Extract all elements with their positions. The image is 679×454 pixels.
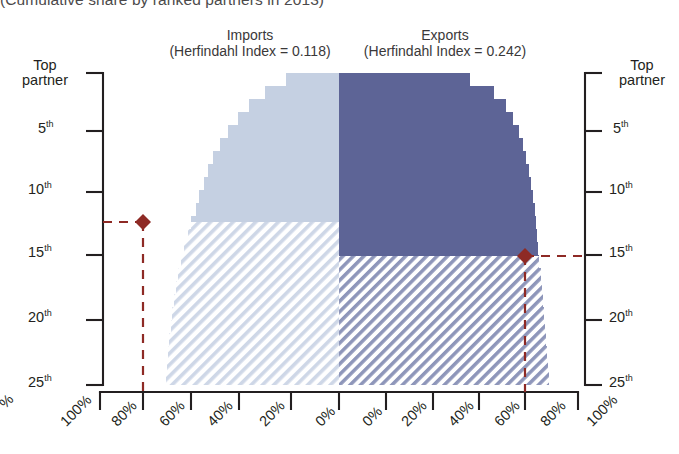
y-left-label-5th: 5th bbox=[38, 120, 54, 136]
imports-reference bbox=[103, 214, 151, 392]
plot-svg bbox=[0, 0, 679, 454]
y-axis-left bbox=[86, 73, 103, 385]
y-left-label-25th: 25th bbox=[28, 374, 52, 390]
y-right-label-10th: 10th bbox=[609, 181, 633, 197]
imports-area bbox=[166, 73, 339, 385]
y-left-label-20th: 20th bbox=[28, 309, 52, 325]
y-right-label-25th: 25th bbox=[609, 374, 633, 390]
y-left-label-15th: 15th bbox=[28, 244, 52, 260]
y-right-label-15th: 15th bbox=[609, 244, 633, 260]
y-axis-right bbox=[585, 73, 602, 385]
y-left-label-top-partner: Toppartner bbox=[8, 58, 82, 87]
y-right-label-5th: 5th bbox=[613, 120, 629, 136]
y-left-label-10th: 10th bbox=[28, 181, 52, 197]
chart-root: (Cumulative share by ranked partners in … bbox=[0, 0, 679, 454]
y-right-label-20th: 20th bbox=[609, 309, 633, 325]
imports-reference-marker bbox=[135, 214, 151, 230]
exports-area bbox=[339, 73, 549, 385]
y-right-label-top-partner: Toppartner bbox=[607, 58, 677, 87]
